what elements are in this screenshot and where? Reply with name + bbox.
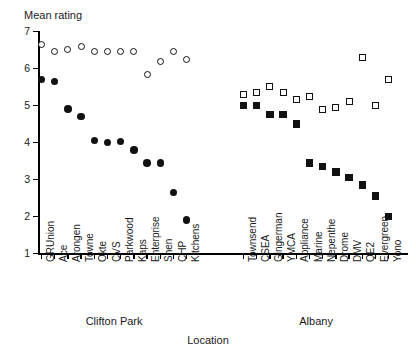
data-point-open-circle [157,58,164,65]
x-axis-category-label: CHP [178,241,188,262]
data-point-filled-square [306,159,314,167]
data-point-open-square [332,104,339,111]
x-axis-category-label: Yono [393,240,403,262]
data-point-open-square [253,89,260,96]
data-point-filled-circle [51,78,59,86]
x-axis-category-label: DMV [353,240,363,262]
x-axis-category-label: Townsend [248,217,258,262]
y-axis-tick [33,105,39,106]
data-point-open-square [372,102,379,109]
y-axis-tick-label: 3 [8,174,30,185]
data-point-filled-circle [130,146,138,154]
data-point-open-square [306,93,313,100]
y-axis-tick [33,142,39,143]
data-point-filled-square [332,168,340,176]
x-axis-category-label: Appliance [300,218,310,262]
data-point-filled-square [253,102,261,110]
y-axis-tick-label: 1 [8,248,30,259]
data-point-filled-square [319,163,327,171]
x-axis-category-label: GRUnion [46,221,56,262]
data-point-filled-square [385,213,393,221]
data-point-open-square [359,54,366,61]
data-point-open-circle [170,48,177,55]
data-point-filled-circle [183,216,191,224]
data-point-filled-circle [157,159,165,167]
data-point-filled-circle [91,137,99,145]
data-point-filled-circle [117,138,125,146]
x-axis-category-label: Parkwood [125,218,135,262]
data-point-open-square [319,106,326,113]
x-axis-category-label: QE2 [366,242,376,262]
x-axis-category-label: Drome [340,232,350,262]
data-point-open-circle [51,48,58,55]
x-axis-category-label: CVS [112,241,122,262]
y-axis-tick-label: 2 [8,211,30,222]
x-axis-category-label: Arongen [72,224,82,262]
group-label: Clifton Park [86,315,143,327]
x-axis-category-label: Kaps [138,239,148,262]
data-point-open-circle [117,48,124,55]
y-axis-tick-label: 6 [8,63,30,74]
data-point-open-circle [38,41,45,48]
data-point-open-circle [130,48,137,55]
x-axis-category-label: Nepenthe [327,219,337,262]
data-point-filled-square [293,120,301,128]
data-point-open-square [346,98,353,105]
data-point-filled-circle [38,76,46,84]
data-point-open-circle [183,56,190,63]
x-axis-category-label: Towne [85,233,95,262]
data-point-filled-square [372,192,380,200]
data-point-open-circle [144,71,151,78]
y-axis-tick-label: 7 [8,26,30,37]
y-axis-title: Mean rating [24,9,82,22]
x-axis-category-label: Marine [314,231,324,262]
x-axis-category-label: Ace [59,245,69,262]
x-axis-category-label: YMCA [287,233,297,262]
data-point-open-square [240,91,247,98]
data-point-filled-square [240,102,248,110]
group-label: Albany [299,315,333,327]
x-axis-category-label: Enterprise [151,216,161,262]
y-axis-tick [33,179,39,180]
data-point-open-circle [78,43,85,50]
data-point-filled-circle [104,139,112,147]
data-point-open-square [385,76,392,83]
data-point-filled-square [345,174,353,182]
data-point-filled-circle [170,189,178,197]
data-point-filled-circle [143,159,151,167]
y-axis-tick [33,31,39,32]
x-axis-category-label: CSEA [261,235,271,262]
data-point-filled-circle [64,105,72,113]
x-axis-category-label: Kitchens [191,224,201,262]
x-axis-category-label: Okte [98,241,108,262]
data-point-open-circle [64,46,71,53]
x-axis-category-label: Shen [164,239,174,262]
x-axis-tick [243,253,244,259]
data-point-filled-square [266,111,274,119]
scatter-chart-figure: Mean rating 1234567 GRUnionAceArongenTow… [0,0,416,357]
y-axis-tick [33,253,39,254]
x-axis-category-label: Gingerman [274,213,284,262]
data-point-filled-circle [77,113,85,121]
data-point-open-square [280,89,287,96]
data-point-open-circle [91,48,98,55]
y-axis-tick-label: 4 [8,137,30,148]
x-axis-category-label: Evergreen [380,216,390,262]
y-axis-tick [33,216,39,217]
x-axis-title: Location [0,334,416,347]
data-point-open-circle [104,48,111,55]
data-point-open-square [293,96,300,103]
y-axis-tick-label: 5 [8,100,30,111]
y-axis-tick [33,68,39,69]
data-point-open-square [266,83,273,90]
x-axis-tick [41,253,42,259]
data-point-filled-square [279,111,287,119]
data-point-filled-square [359,181,367,189]
